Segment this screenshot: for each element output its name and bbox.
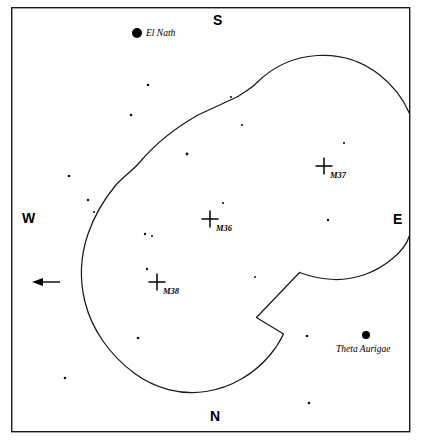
bright-star-el-nath [132,28,142,38]
field-star [186,153,189,156]
field-star [87,199,90,202]
sky-canvas [0,0,422,448]
fov-right-circle-arc [300,236,410,280]
field-star [68,175,71,178]
cardinal-label-east: E [393,212,402,226]
cardinal-label-west: W [22,211,35,225]
field-star [230,96,232,98]
field-star [241,124,243,126]
dso-label-m37: M37 [330,171,346,180]
fov-upper-left-arc [116,97,239,186]
dso-label-m38: M38 [163,287,179,296]
field-star [306,335,309,338]
cardinal-label-north: N [210,409,220,423]
star-chart-figure: S N W E El Nath Theta Aurigae M37 M36 M3… [0,0,422,448]
field-star [146,268,148,270]
field-star [137,337,140,340]
star-label-theta-aurigae: Theta Aurigae [336,345,390,355]
fov-left-circle-arc [82,186,300,393]
field-star [327,219,329,221]
field-star [130,114,133,117]
field-star [254,276,256,278]
field-star [147,84,150,87]
field-star [93,211,95,213]
fov-right-circle-top-arc [238,55,410,113]
field-of-view-outline [82,55,410,392]
bright-star-theta-aurigae [362,331,370,339]
dso-label-m36: M36 [216,224,232,233]
cardinal-label-south: S [213,13,222,27]
dso-marker-group [149,158,333,291]
field-star [144,233,146,235]
motion-arrow [32,278,60,286]
field-star [222,202,224,204]
star-label-el-nath: El Nath [146,29,175,39]
arrow-head [32,278,43,286]
field-star [308,402,311,405]
field-star [64,377,67,380]
field-star [151,235,153,237]
field-star [343,142,345,144]
field-star-group [64,84,345,405]
